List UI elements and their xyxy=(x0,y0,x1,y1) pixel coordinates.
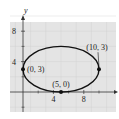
data-point xyxy=(97,67,101,71)
y-axis-arrow-icon xyxy=(21,15,25,20)
x-tick-label: 4 xyxy=(51,95,55,104)
plot-background xyxy=(10,22,116,112)
point-label: (10, 3) xyxy=(86,43,108,52)
y-tick-label: 4 xyxy=(12,58,16,67)
point-label: (0, 3) xyxy=(27,65,45,74)
data-point xyxy=(21,67,25,71)
ellipse-chart: y 4848 (0, 3)(5, 0)(10, 3) xyxy=(0,0,119,119)
x-tick-label: 8 xyxy=(82,95,86,104)
point-label: (5, 0) xyxy=(52,80,70,89)
data-point xyxy=(59,90,63,94)
y-tick-label: 8 xyxy=(12,27,16,36)
y-axis-label: y xyxy=(23,6,28,15)
